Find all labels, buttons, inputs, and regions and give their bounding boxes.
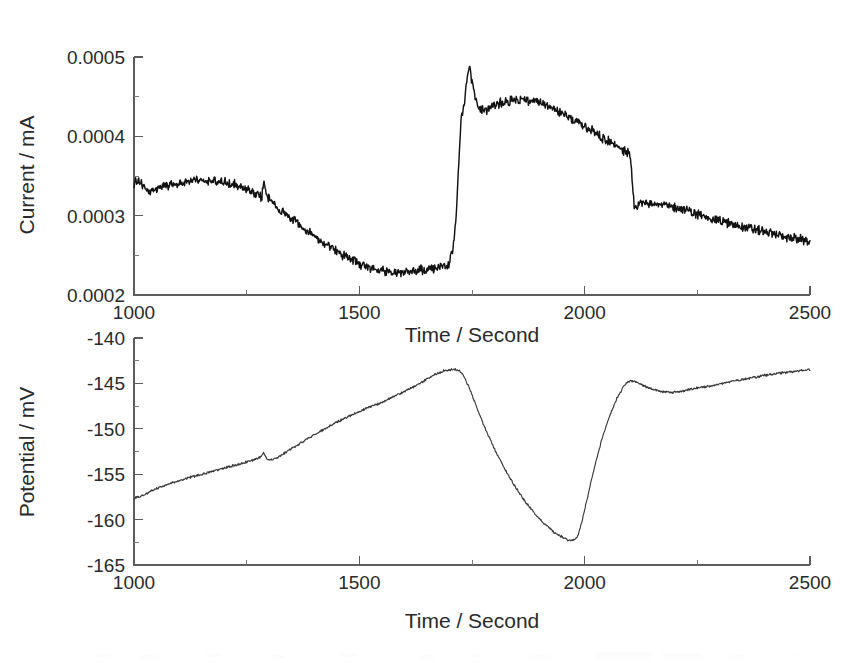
y-tick-label: -160	[87, 510, 125, 531]
top-x-axis-title: Time / Second	[405, 323, 540, 346]
y-tick-label: -165	[87, 555, 125, 576]
x-tick-label: 2500	[789, 572, 831, 593]
y-tick-label: 0.0002	[67, 285, 125, 306]
y-tick-label: -155	[87, 464, 125, 485]
y-tick-label: 0.0003	[67, 206, 125, 227]
x-tick-label: 1500	[338, 572, 380, 593]
bottom-y-axis-title: Potential / mV	[15, 387, 38, 518]
x-tick-label: 2000	[564, 302, 606, 323]
y-tick-label: 0.0005	[67, 47, 125, 68]
y-tick-label: 0.0004	[67, 126, 126, 147]
x-tick-label: 1500	[338, 302, 380, 323]
x-tick-label: 2000	[564, 572, 606, 593]
y-tick-label: -145	[87, 373, 125, 394]
two-panel-electrochemistry-figure: 10001500200025000.00020.00030.00040.0005…	[0, 0, 860, 663]
y-tick-label: -150	[87, 419, 125, 440]
x-tick-label: 2500	[789, 302, 831, 323]
bottom-x-axis-title: Time / Second	[405, 609, 540, 632]
top-y-axis-title: Current / mA	[15, 115, 38, 234]
y-tick-label: -140	[87, 328, 125, 349]
